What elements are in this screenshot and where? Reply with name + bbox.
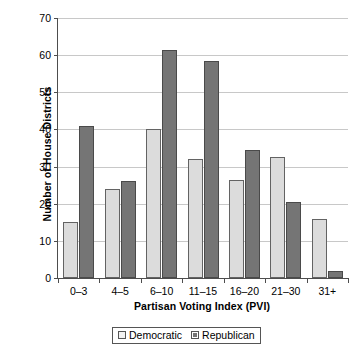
x-tick-label: 21–30 [271,286,300,297]
x-tick-label: 31+ [318,286,336,297]
y-tick-label: 50 [39,87,51,98]
bar-democratic[interactable] [105,189,120,278]
bar-group [270,18,301,278]
x-tick-mark [224,278,225,283]
bar-democratic[interactable] [63,222,78,278]
x-tick-mark [58,278,59,283]
bar-group [105,18,136,278]
x-tick-label: 16–20 [230,286,259,297]
x-tick-mark [265,278,266,283]
y-tick-label: 30 [39,161,51,172]
x-tick-mark [99,278,100,283]
legend-label: Democratic [129,330,182,341]
bar-republican[interactable] [121,181,136,278]
legend-item-democratic[interactable]: Democratic [118,330,182,341]
x-tick-label: 6–10 [150,286,173,297]
bar-democratic[interactable] [270,157,285,278]
bar-republican[interactable] [245,150,260,278]
bar-group [146,18,177,278]
bar-democratic[interactable] [146,129,161,278]
bar-group [229,18,260,278]
x-axis-title: Partisan Voting Index (PVI) [57,300,347,312]
bar-group [63,18,94,278]
democratic-swatch [118,331,126,339]
x-tick-mark [307,278,308,283]
y-tick-label: 20 [39,198,51,209]
x-tick-mark [141,278,142,283]
y-tick-label: 40 [39,124,51,135]
legend-label: Republican [202,330,255,341]
x-tick-mark [348,278,349,283]
bar-democratic[interactable] [188,159,203,278]
chart-legend: DemocraticRepublican [112,327,261,344]
bar-group [312,18,343,278]
bars-layer [58,18,348,278]
bar-republican[interactable] [162,50,177,278]
bar-group [188,18,219,278]
x-tick-label: 11–15 [189,286,217,297]
x-tick-mark [182,278,183,283]
bar-republican[interactable] [204,61,219,278]
y-tick-label: 10 [39,236,51,247]
y-tick-label: 70 [39,13,51,24]
x-tick-label: 0–3 [70,286,88,297]
republican-swatch [191,331,199,339]
bar-republican[interactable] [79,126,94,278]
x-tick-label: 4–5 [111,286,129,297]
legend-item-republican[interactable]: Republican [191,330,255,341]
y-tick-label: 0 [45,273,51,284]
bar-chart: Number of House Districts 01020304050607… [0,0,355,348]
bar-republican[interactable] [286,202,301,278]
bar-republican[interactable] [328,271,343,278]
plot-area: 010203040506070 0–34–56–1011–1516–2021–3… [57,18,348,279]
y-tick-label: 60 [39,50,51,61]
bar-democratic[interactable] [229,180,244,278]
bar-democratic[interactable] [312,219,327,278]
